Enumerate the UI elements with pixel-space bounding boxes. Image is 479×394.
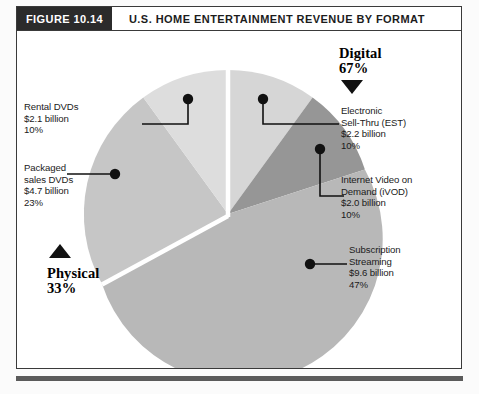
- figure-number-tag: FIGURE 10.14: [17, 7, 112, 30]
- group-label-digital: Digital 67%: [339, 46, 459, 75]
- triangle-up-icon: [49, 244, 71, 258]
- group-label-physical-percent: 33%: [47, 280, 76, 296]
- chart-canvas: Rental DVDs $2.1 billion 10% Packaged sa…: [17, 31, 461, 368]
- dot-rental-dvds: [183, 94, 193, 104]
- figure-title: U.S. HOME ENTERTAINMENT REVENUE BY FORMA…: [112, 7, 461, 30]
- callout-ivod: Internet Video on Demand (iVOD) $2.0 bil…: [341, 174, 459, 220]
- dot-ivod: [315, 144, 325, 154]
- figure-bottom-rule: [16, 376, 463, 381]
- dot-subscription: [305, 259, 315, 269]
- figure-header: FIGURE 10.14 U.S. HOME ENTERTAINMENT REV…: [17, 7, 461, 31]
- callout-est: Electronic Sell-Thru (EST) $2.2 billion …: [341, 105, 457, 151]
- figure-panel: FIGURE 10.14 U.S. HOME ENTERTAINMENT REV…: [0, 0, 479, 394]
- callout-subscription: Subscription Streaming $9.6 billion 47%: [349, 244, 461, 290]
- callout-rental-dvds: Rental DVDs $2.1 billion 10%: [24, 101, 134, 136]
- group-label-physical: Physical 33%: [47, 266, 167, 295]
- triangle-down-icon: [341, 80, 363, 94]
- group-label-digital-percent: 67%: [339, 60, 368, 76]
- dot-est: [258, 94, 268, 104]
- callout-packaged-dvds: Packaged sales DVDs $4.7 billion 23%: [24, 162, 134, 208]
